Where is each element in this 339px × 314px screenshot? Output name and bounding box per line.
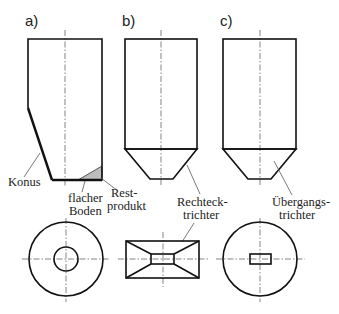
label-flacher: flacher — [68, 191, 104, 205]
top-b-edge-tr — [174, 241, 199, 254]
leader-rechtecktrichter-top — [182, 223, 194, 242]
leader-konus — [24, 153, 40, 177]
label-uebergangs-trichter: trichter — [279, 208, 316, 222]
panel-b-label: b) — [122, 12, 135, 29]
top-b-edge-br — [174, 264, 199, 278]
panel-c-label: c) — [220, 12, 233, 29]
panel-c: c) Übergangs- trichter — [220, 12, 330, 222]
top-b-edge-bl — [126, 264, 151, 278]
label-rest: Rest- — [111, 186, 137, 200]
top-view-c — [216, 218, 305, 302]
leader-uebergangstrichter — [274, 161, 292, 195]
label-produkt: produkt — [107, 199, 146, 213]
leader-rechtecktrichter — [187, 165, 200, 194]
top-view-b — [118, 232, 208, 287]
top-b-edge-tl — [126, 241, 151, 254]
transition-hopper-side — [223, 149, 296, 179]
label-uebergangs: Übergangs- — [272, 195, 330, 209]
panel-c-cylinder — [223, 39, 296, 149]
label-rechteck-trichter: trichter — [183, 208, 220, 222]
panel-a-label: a) — [25, 12, 38, 29]
label-konus: Konus — [8, 175, 41, 189]
residue-product-area — [78, 166, 102, 180]
cone-wall — [28, 108, 52, 180]
label-boden: Boden — [69, 204, 102, 218]
top-view-a — [22, 218, 110, 302]
silo-hopper-diagram: a) Konus flacher Boden Rest- produkt b) … — [0, 0, 339, 314]
label-rechteck: Rechteck- — [177, 195, 228, 209]
